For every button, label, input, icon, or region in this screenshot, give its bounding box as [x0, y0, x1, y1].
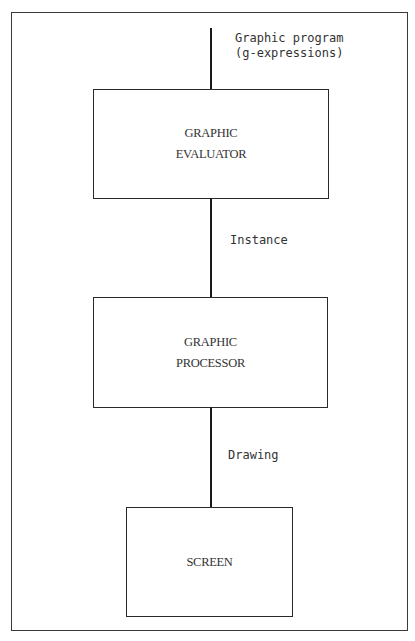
- input-connector: [210, 28, 212, 90]
- box-label-line: SCREEN: [186, 552, 232, 573]
- screen-box: SCREEN: [126, 507, 293, 617]
- input-label-line2: (g-expressions): [235, 46, 343, 60]
- box-label-line: PROCESSOR: [176, 353, 245, 374]
- graphic-evaluator-box: GRAPHIC EVALUATOR: [93, 89, 329, 199]
- instance-connector: [210, 198, 212, 298]
- drawing-label: Drawing: [228, 448, 279, 462]
- box-label-line: EVALUATOR: [176, 144, 246, 165]
- instance-label: Instance: [230, 233, 288, 247]
- input-label-line1: Graphic program: [235, 31, 343, 45]
- box-label-line: GRAPHIC: [184, 332, 237, 353]
- drawing-connector: [210, 407, 212, 508]
- graphic-processor-box: GRAPHIC PROCESSOR: [93, 297, 328, 408]
- box-label-line: GRAPHIC: [185, 123, 238, 144]
